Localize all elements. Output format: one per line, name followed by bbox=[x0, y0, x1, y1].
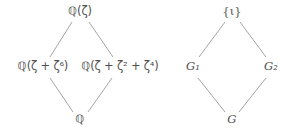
node-identity-subgroup: {ι} bbox=[222, 6, 241, 18]
node-group-g: G bbox=[227, 114, 236, 126]
edge-g1-to-g bbox=[198, 78, 225, 112]
edge-identity-to-g2 bbox=[240, 22, 266, 57]
node-q: ℚ bbox=[76, 114, 85, 126]
node-subgroup-g1: G₁ bbox=[186, 61, 200, 73]
node-q-zeta-plus-zeta2-plus-zeta4-label: ℚ(ζ + ζ² + ζ⁴) bbox=[81, 59, 158, 73]
node-q-zeta-plus-zeta6-label: ℚ(ζ + ζ⁶) bbox=[18, 59, 68, 73]
edge-right-to-q bbox=[88, 78, 112, 112]
galois-group-lattice: {ι} G₁ G₂ G bbox=[170, 0, 290, 133]
node-q-zeta: ℚ(ζ) bbox=[68, 6, 91, 18]
node-identity-subgroup-label: {ι} bbox=[222, 4, 241, 18]
edge-qzeta-to-right bbox=[89, 22, 113, 57]
node-subgroup-g2-label: G₂ bbox=[264, 59, 278, 73]
edge-identity-to-g1 bbox=[199, 22, 225, 57]
node-q-label: ℚ bbox=[76, 112, 85, 126]
edge-g2-to-g bbox=[239, 78, 266, 112]
node-group-g-label: G bbox=[227, 112, 236, 126]
node-subgroup-g2: G₂ bbox=[264, 61, 278, 73]
edge-qzeta-to-left bbox=[50, 22, 72, 57]
node-q-zeta-plus-zeta2-plus-zeta4: ℚ(ζ + ζ² + ζ⁴) bbox=[81, 61, 158, 73]
field-extension-lattice: ℚ(ζ) ℚ(ζ + ζ⁶) ℚ(ζ + ζ² + ζ⁴) ℚ bbox=[0, 0, 170, 133]
node-subgroup-g1-label: G₁ bbox=[186, 59, 200, 73]
node-q-zeta-label: ℚ(ζ) bbox=[68, 4, 91, 18]
node-q-zeta-plus-zeta6: ℚ(ζ + ζ⁶) bbox=[18, 61, 68, 73]
edge-left-to-q bbox=[50, 78, 73, 112]
